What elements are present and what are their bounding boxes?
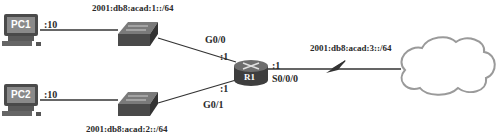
g01-host-id: :1 bbox=[220, 84, 228, 94]
s000-interface-label: S0/0/0 bbox=[272, 74, 298, 84]
pc2-host-id: :10 bbox=[44, 90, 57, 100]
pc1-label: PC1 bbox=[11, 19, 30, 30]
lan1-network-label: 2001:db8:acad:1::/64 bbox=[92, 4, 174, 13]
topology-canvas bbox=[0, 0, 499, 140]
switch1-icon[interactable] bbox=[118, 22, 158, 46]
g01-interface-label: G0/1 bbox=[203, 100, 224, 110]
lan2-network-label: 2001:db8:acad:2::/64 bbox=[86, 125, 168, 134]
g00-interface-label: G0/0 bbox=[205, 35, 226, 45]
link-r1-cloud-serial bbox=[266, 61, 401, 69]
pc1-host-id: :10 bbox=[44, 20, 57, 30]
pc2-label: PC2 bbox=[11, 89, 30, 100]
wan-network-label: 2001:db8:acad:3::/64 bbox=[310, 44, 392, 53]
g00-host-id: :1 bbox=[220, 52, 228, 62]
serial-bolt-icon bbox=[326, 60, 346, 73]
s000-host-id: :1 bbox=[272, 61, 280, 71]
cloud-icon bbox=[401, 37, 494, 95]
router-label: R1 bbox=[244, 72, 255, 82]
switch2-icon[interactable] bbox=[118, 92, 158, 116]
